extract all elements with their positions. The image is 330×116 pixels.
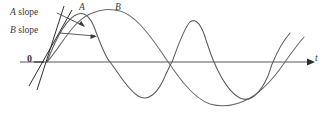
b-slope-label: B slope [10,26,38,36]
curve-b-path [47,9,304,106]
b-slope-leader [60,33,97,39]
t-axis-arrow-icon [307,58,315,65]
tangent-a-line [37,6,64,90]
a-slope-label: A slope [10,8,38,18]
curve-a-label: A [79,3,85,13]
a-slope-word: slope [16,7,38,17]
a-slope-arrow-icon [79,21,86,27]
curve-b-label: B [115,3,121,13]
t-axis-label: t [315,54,318,64]
figure-canvas: A slope B slope A B 0 t [0,0,330,116]
origin-label: 0 [27,54,32,64]
b-slope-word: slope [16,25,38,35]
b-slope-arrow-icon [90,34,97,39]
diagram-svg [0,0,330,116]
